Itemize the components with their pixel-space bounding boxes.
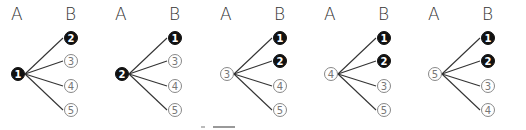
leaf-node: 5 xyxy=(273,103,287,117)
tree-4: AB41235 xyxy=(313,0,417,130)
leaf-node: 2 xyxy=(377,54,391,68)
leaf-node: 1 xyxy=(273,31,287,45)
tree-3: AB31245 xyxy=(209,0,313,130)
root-node: 3 xyxy=(220,67,234,81)
leaf-node: 4 xyxy=(481,103,495,117)
root-node: 2 xyxy=(115,67,129,81)
leaf-node: 2 xyxy=(64,31,78,45)
leaf-node: 5 xyxy=(168,103,182,117)
leaf-node: 3 xyxy=(481,79,495,93)
leaf-node: 2 xyxy=(273,54,287,68)
leaf-node: 5 xyxy=(64,103,78,117)
leaf-node: 5 xyxy=(377,103,391,117)
column-b-header: B xyxy=(378,4,389,24)
leaf-node: 1 xyxy=(377,31,391,45)
divider-mark xyxy=(201,126,205,128)
leaf-node: 2 xyxy=(481,54,495,68)
leaf-node: 3 xyxy=(64,54,78,68)
column-b-header: B xyxy=(482,4,493,24)
leaf-node: 1 xyxy=(481,31,495,45)
root-node: 5 xyxy=(428,67,442,81)
tree-5: AB51234 xyxy=(417,0,521,130)
column-a-header: A xyxy=(220,4,232,24)
answer-blank xyxy=(213,126,235,128)
root-node: 4 xyxy=(324,67,338,81)
column-a-header: A xyxy=(428,4,440,24)
leaf-node: 4 xyxy=(64,79,78,93)
column-a-header: A xyxy=(324,4,336,24)
root-node: 1 xyxy=(11,67,25,81)
leaf-node: 1 xyxy=(168,31,182,45)
leaf-node: 4 xyxy=(168,79,182,93)
tree-2: AB21345 xyxy=(104,0,208,130)
column-b-header: B xyxy=(169,4,180,24)
leaf-node: 4 xyxy=(273,79,287,93)
column-b-header: B xyxy=(65,4,76,24)
column-b-header: B xyxy=(274,4,285,24)
tree-1: AB12345 xyxy=(0,0,104,130)
leaf-node: 3 xyxy=(168,54,182,68)
column-a-header: A xyxy=(115,4,127,24)
leaf-node: 3 xyxy=(377,79,391,93)
column-a-header: A xyxy=(11,4,23,24)
